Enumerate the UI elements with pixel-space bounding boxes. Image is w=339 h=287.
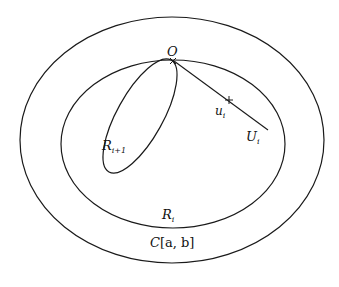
tilted-region-label: Ri+1 [101, 138, 126, 155]
segment-u-i-label: Ui [246, 129, 260, 146]
tilted-region-r-i-plus-1 [89, 49, 191, 183]
segment-u-i [174, 61, 268, 130]
point-u-i-label: ui [215, 104, 226, 120]
origin-label: O [167, 44, 178, 59]
outer-region-label: C[a, b] [150, 235, 194, 250]
inner-region-label: Ri [161, 207, 175, 224]
diagram-canvas: O ui Ui Ri+1 Ri C[a, b] [0, 0, 339, 287]
inner-region-r-i [61, 60, 285, 228]
